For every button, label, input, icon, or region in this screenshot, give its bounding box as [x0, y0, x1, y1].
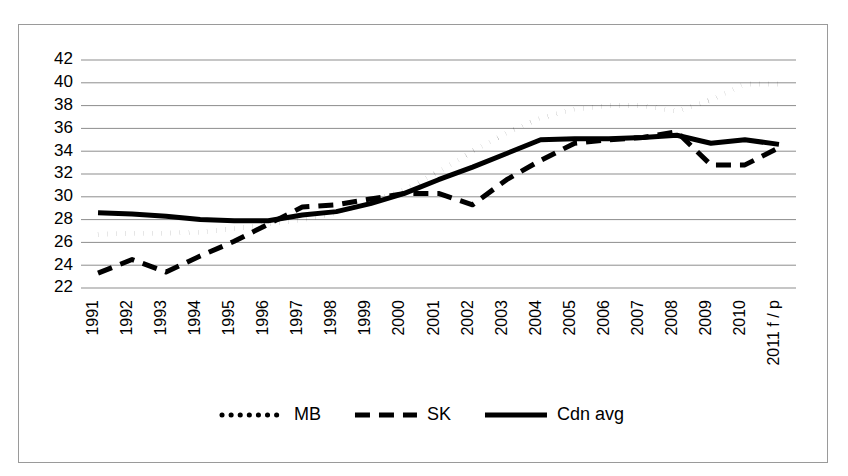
y-tick-label: 28	[54, 209, 73, 228]
y-tick-label: 42	[54, 49, 73, 68]
x-tick-label: 2004	[527, 300, 544, 336]
x-tick-label: 2003	[493, 300, 510, 336]
x-tick-label: 1997	[288, 300, 305, 336]
line-chart: 2224262830323436384042 19911992199319941…	[19, 25, 827, 462]
x-tick-label: 2010	[731, 300, 748, 336]
x-tick-label: 1994	[186, 300, 203, 336]
series-line-sk	[98, 132, 779, 273]
x-axis-tick-labels: 1991199219931994199519961997199819992000…	[84, 300, 782, 366]
x-tick-label: 2008	[663, 300, 680, 336]
series-group	[98, 84, 779, 273]
legend-label-cdn-avg: Cdn avg	[557, 404, 624, 424]
x-tick-label: 2001	[425, 300, 442, 336]
y-tick-label: 24	[54, 255, 73, 274]
y-tick-label: 36	[54, 118, 73, 137]
x-tick-label: 2000	[390, 300, 407, 336]
y-tick-label: 40	[54, 72, 73, 91]
x-tick-label: 2006	[595, 300, 612, 336]
gridlines-group	[81, 60, 796, 288]
x-tick-label: 2002	[459, 300, 476, 336]
x-tick-label: 1992	[118, 300, 135, 336]
y-axis-tick-labels: 2224262830323436384042	[54, 49, 73, 296]
x-tick-label: 1993	[152, 300, 169, 336]
y-tick-label: 22	[54, 277, 73, 296]
x-tick-label: 2005	[561, 300, 578, 336]
x-tick-label: 2011 f / p	[765, 300, 782, 366]
y-tick-label: 30	[54, 186, 73, 205]
legend-label-mb: MB	[294, 404, 321, 424]
x-tick-label: 1999	[356, 300, 373, 336]
y-tick-label: 26	[54, 232, 73, 251]
series-line-cdn-avg	[98, 135, 779, 221]
legend-label-sk: SK	[427, 404, 451, 424]
x-tick-label: 1991	[84, 300, 101, 336]
x-tick-label: 2007	[629, 300, 646, 336]
y-tick-label: 38	[54, 95, 73, 114]
y-tick-label: 32	[54, 163, 73, 182]
y-tick-label: 34	[54, 141, 73, 160]
x-tick-label: 1998	[322, 300, 339, 336]
x-tick-label: 1996	[254, 300, 271, 336]
x-tick-label: 1995	[220, 300, 237, 336]
chart-figure: 2224262830323436384042 19911992199319941…	[18, 24, 828, 463]
chart-legend: MBSKCdn avg	[222, 404, 624, 424]
series-line-mb	[98, 84, 779, 234]
x-tick-label: 2009	[697, 300, 714, 336]
